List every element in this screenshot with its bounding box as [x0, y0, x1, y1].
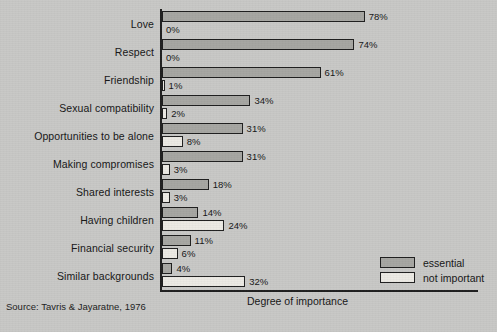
bar-essential [162, 151, 243, 162]
category-label: Friendship [2, 72, 154, 88]
bar-essential [162, 235, 191, 246]
chart-row: Shared interests18%3% [0, 178, 497, 206]
x-axis-line [160, 290, 478, 292]
bar-group: 31%8% [162, 122, 497, 150]
value-label: 8% [187, 136, 201, 147]
value-label: 1% [169, 80, 183, 91]
value-label: 4% [176, 263, 190, 274]
legend-label-essential: essential [423, 257, 464, 269]
bar-essential [162, 207, 198, 218]
bar-not-important [162, 220, 224, 231]
category-label: Financial security [2, 240, 154, 256]
value-label: 31% [247, 151, 266, 162]
category-label: Love [2, 16, 154, 32]
bar-essential [162, 263, 172, 274]
value-label: 78% [369, 11, 388, 22]
bar-not-important [162, 80, 165, 91]
value-label: 18% [213, 179, 232, 190]
chart-row: Respect74%0% [0, 38, 497, 66]
value-label: 14% [202, 207, 221, 218]
value-label: 31% [247, 123, 266, 134]
bar-group: 34%2% [162, 94, 497, 122]
legend-item-not-important: not important [380, 271, 484, 284]
legend-swatch-essential [380, 257, 415, 268]
legend-swatch-not-important [380, 272, 415, 283]
value-label: 0% [166, 52, 180, 63]
bar-essential [162, 179, 209, 190]
chart-row: Sexual compatibility34%2% [0, 94, 497, 122]
value-label: 6% [182, 248, 196, 259]
bar-essential [162, 123, 243, 134]
bar-not-important [162, 248, 178, 259]
value-label: 3% [174, 164, 188, 175]
value-label: 2% [171, 108, 185, 119]
bar-group: 78%0% [162, 10, 497, 38]
chart-row: Having children14%24% [0, 206, 497, 234]
bar-not-important [162, 108, 167, 119]
value-label: 3% [174, 192, 188, 203]
value-label: 24% [228, 220, 247, 231]
value-label: 61% [325, 67, 344, 78]
legend-item-essential: essential [380, 256, 484, 269]
category-label: Shared interests [2, 184, 154, 200]
bar-group: 74%0% [162, 38, 497, 66]
chart-row: Love78%0% [0, 10, 497, 38]
chart-row: Opportunities to be alone31%8% [0, 122, 497, 150]
category-label: Opportunities to be alone [2, 128, 154, 144]
bar-group: 31%3% [162, 150, 497, 178]
legend-label-not-important: not important [423, 272, 484, 284]
category-label: Sexual compatibility [2, 100, 154, 116]
category-label: Similar backgrounds [2, 268, 154, 284]
bar-group: 61%1% [162, 66, 497, 94]
bar-group: 18%3% [162, 178, 497, 206]
value-label: 0% [166, 24, 180, 35]
bar-group: 14%24% [162, 206, 497, 234]
source-note: Source: Tavris & Jayaratne, 1976 [6, 301, 146, 312]
chart-row: Making compromises31%3% [0, 150, 497, 178]
bar-not-important [162, 276, 245, 287]
bar-chart: Love78%0%Respect74%0%Friendship61%1%Sexu… [0, 0, 497, 332]
bar-not-important [162, 136, 183, 147]
value-label: 32% [249, 276, 268, 287]
chart-row: Friendship61%1% [0, 66, 497, 94]
bar-essential [162, 95, 250, 106]
bar-essential [162, 67, 321, 78]
value-label: 11% [195, 235, 213, 246]
bar-essential [162, 11, 365, 22]
bar-not-important [162, 164, 170, 175]
value-label: 34% [254, 95, 273, 106]
chart-legend: essential not important [380, 256, 484, 286]
bar-not-important [162, 192, 170, 203]
category-label: Making compromises [2, 156, 154, 172]
value-label: 74% [358, 39, 377, 50]
bar-essential [162, 39, 354, 50]
category-label: Respect [2, 44, 154, 60]
category-label: Having children [2, 212, 154, 228]
x-axis-title: Degree of importance [247, 295, 348, 307]
